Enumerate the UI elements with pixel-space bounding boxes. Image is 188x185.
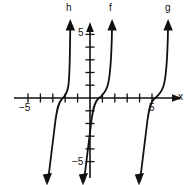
curve-g-arrow-bottom: [135, 173, 144, 185]
curve-h-arrow-top: [66, 19, 75, 31]
y-axis-arrow-up: [86, 22, 94, 32]
curve-h-arrow-bottom: [43, 173, 52, 185]
curve-h: [43, 19, 75, 185]
curve-label-f: f: [109, 3, 112, 13]
curve-label-g: g: [165, 3, 171, 13]
x-tick-label-neg5: −5: [19, 103, 30, 113]
coordinate-plane-svg: [0, 0, 188, 185]
y-tick-label-pos5: 5: [78, 28, 84, 38]
curve-f-arrow-top: [107, 19, 116, 31]
x-tick-label-pos5: 5: [149, 103, 155, 113]
x-axis-label: x: [178, 92, 183, 102]
graph-figure: h f g x −5 5 5 −5: [0, 0, 188, 185]
y-tick-label-neg5: −5: [72, 157, 83, 167]
curve-f: [79, 19, 117, 185]
curve-g-arrow-top: [163, 19, 172, 31]
curve-f-arrow-bottom: [79, 173, 88, 185]
curve-label-h: h: [66, 3, 72, 13]
